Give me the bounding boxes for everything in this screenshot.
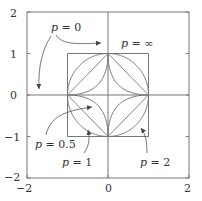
arrow-p-0-5 (46, 107, 92, 135)
y-tick-label: −1 (4, 131, 20, 144)
arrow-p-0-to-x-axis (39, 36, 51, 89)
label-p-inf: p = ∞ (121, 37, 153, 50)
label-p-0-5: p = 0.5 (35, 138, 76, 151)
x-tick-label: 0 (105, 182, 112, 195)
label-p-2: p = 2 (140, 156, 170, 169)
p-norm-unit-ball-diagram: 2 1 0 −1 −2 −2 0 2 p = 0 p = ∞ p = 0.5 p… (0, 0, 202, 201)
x-tick-label: 2 (184, 182, 191, 195)
x-tick-label: −2 (16, 182, 32, 195)
label-p-1: p = 1 (62, 156, 92, 169)
y-tick-label: 0 (10, 89, 17, 102)
y-tick-label: 2 (10, 7, 17, 20)
arrow-p-2 (141, 128, 147, 153)
arrow-p-0-to-y-axis (56, 35, 101, 44)
arrow-p-1 (84, 130, 89, 153)
y-tick-label: 1 (10, 48, 17, 61)
label-p-0: p = 0 (51, 21, 81, 34)
